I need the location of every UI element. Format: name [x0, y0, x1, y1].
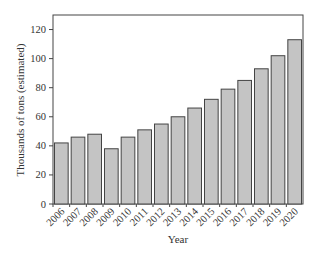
y-tick-label: 0 [41, 199, 46, 210]
y-tick-label: 80 [36, 82, 47, 93]
y-tick-label: 100 [30, 53, 46, 64]
y-tick-label: 40 [36, 140, 47, 151]
bar-2017 [238, 80, 252, 204]
bar-2020 [288, 40, 302, 204]
bar-2007 [71, 137, 85, 204]
bar-2014 [188, 108, 202, 204]
bar-2013 [171, 117, 185, 204]
bar-2008 [88, 134, 102, 204]
x-axis-ticks: 2006200720082009201020112012201320142015… [44, 204, 300, 228]
bar-2016 [221, 89, 235, 204]
y-axis-title: Thousands of tons (estimated) [14, 43, 27, 176]
bar-2006 [55, 143, 69, 204]
x-tick-label: 2020 [277, 206, 300, 229]
y-tick-label: 60 [36, 111, 47, 122]
x-axis-title: Year [168, 233, 189, 245]
y-tick-label: 20 [36, 169, 47, 180]
bar-2012 [155, 124, 169, 204]
bar-2018 [255, 69, 269, 204]
bar-2019 [271, 56, 285, 204]
bar-chart: 020406080100120 200620072008200920102011… [0, 0, 320, 256]
bar-2009 [105, 149, 119, 204]
y-tick-label: 120 [30, 24, 46, 35]
y-axis-ticks: 020406080100120 [30, 24, 53, 209]
bars [55, 40, 302, 204]
bar-2015 [205, 99, 219, 204]
bar-2011 [138, 130, 152, 204]
bar-2010 [121, 137, 135, 204]
